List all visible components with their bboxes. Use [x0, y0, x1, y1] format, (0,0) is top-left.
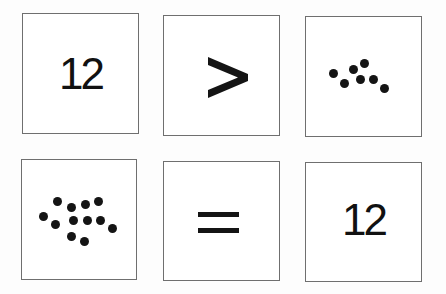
dot: [67, 232, 76, 241]
dot: [67, 203, 76, 212]
dot: [81, 200, 90, 209]
dot: [53, 197, 62, 206]
dot: [340, 79, 349, 88]
dot: [39, 212, 48, 221]
dot: [94, 197, 103, 206]
dot: [80, 237, 89, 246]
numeral-text: 12: [306, 198, 421, 242]
card-numeral-12-top: 12: [22, 13, 139, 134]
card-equals: [163, 161, 280, 281]
card-greater-than: [163, 15, 280, 136]
equals-icon-bottom-bar: [198, 228, 239, 233]
card-numeral-12-bottom: 12: [305, 162, 422, 282]
dot: [369, 75, 378, 84]
dot: [96, 216, 105, 225]
card-dots-12: [21, 159, 137, 280]
dot: [69, 216, 78, 225]
numeral-text: 12: [23, 52, 138, 96]
card-dots-7: [305, 16, 422, 137]
dot: [360, 59, 369, 68]
dot: [108, 224, 117, 233]
dot: [380, 84, 389, 93]
greater-than-icon: [164, 16, 281, 137]
equals-icon-top-bar: [198, 212, 239, 217]
dot: [329, 69, 338, 78]
dot: [83, 216, 92, 225]
dot: [356, 75, 365, 84]
dot: [349, 65, 358, 74]
dot: [51, 220, 60, 229]
